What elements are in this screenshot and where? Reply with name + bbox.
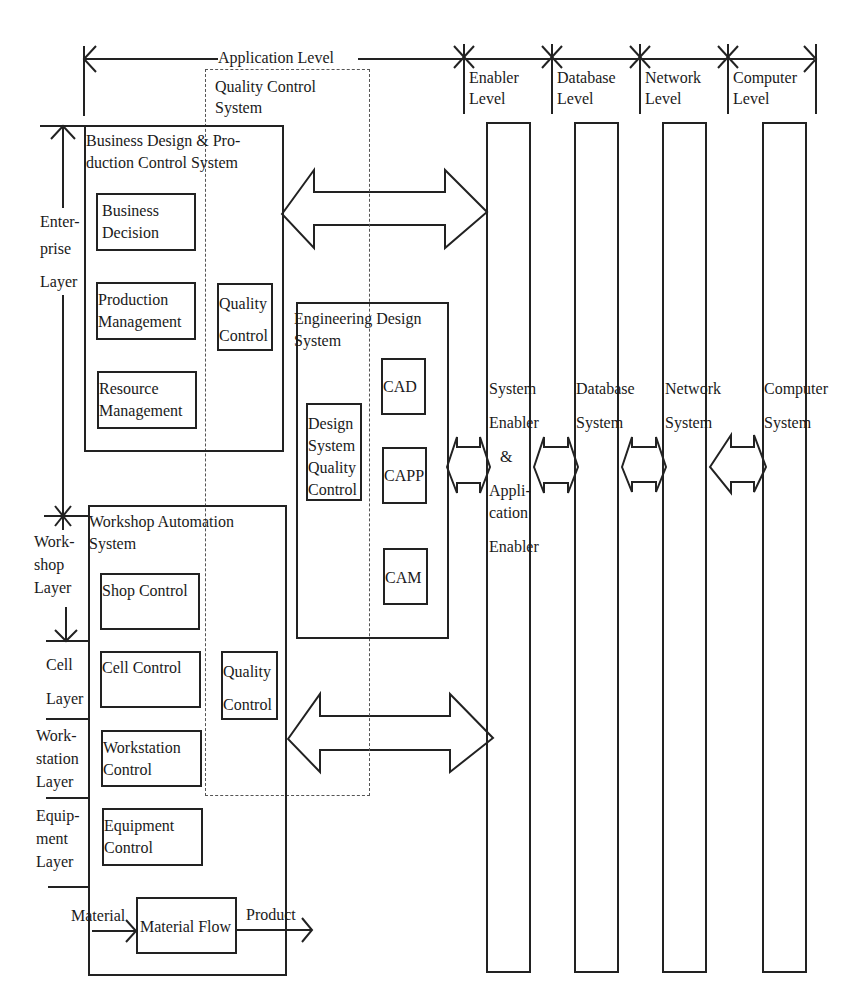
product-output-label: Product (246, 904, 296, 925)
computer-level-label: ComputerLevel (733, 67, 797, 109)
business-decision-module[interactable]: Business Decision (96, 193, 196, 251)
quality-control-system-label: Quality ControlSystem (215, 76, 316, 118)
workshop-quality-control-module[interactable]: Quality Control (221, 651, 278, 720)
cam-module[interactable]: CAM (383, 548, 428, 605)
enabler-level-label: EnablerLevel (469, 67, 519, 109)
workshop-system-title: Workshop Automation System (89, 511, 234, 555)
equipment-control-module[interactable]: Equipment Control (102, 808, 203, 866)
workstation-control-module[interactable]: Workstation Control (101, 730, 202, 787)
enterprise-layer-label: Enter- prise Layer (40, 208, 80, 295)
double-arrow-enabler-database-icon (534, 437, 578, 493)
cell-layer-label: Cell Layer (46, 648, 83, 716)
database-level-label: DatabaseLevel (557, 67, 616, 109)
business-system-title: Business Design & Pro- duction Control S… (86, 130, 240, 174)
workshop-layer-label: Work- shop Layer (34, 530, 74, 599)
material-flow-module[interactable]: Material Flow (136, 897, 237, 954)
network-level-label: NetworkLevel (645, 67, 701, 109)
workstation-layer-label: Work- station Layer (36, 724, 79, 793)
cell-control-module[interactable]: Cell Control (100, 651, 201, 708)
network-system-column[interactable] (662, 122, 707, 973)
application-level-label: Application Level (218, 47, 334, 68)
capp-module[interactable]: CAPP (382, 447, 427, 504)
resource-management-module[interactable]: Resource Management (97, 371, 197, 429)
double-arrow-engineering-enabler-icon (447, 437, 490, 493)
double-arrow-database-network-icon (622, 437, 666, 492)
shop-control-module[interactable]: Shop Control (100, 573, 200, 630)
computer-system-label: Computer System (764, 372, 828, 440)
material-input-label: Material (71, 905, 125, 926)
double-arrow-network-computer-icon (710, 435, 766, 493)
cad-module[interactable]: CAD (381, 358, 426, 415)
network-system-label: Network System (665, 372, 721, 440)
engineering-system-title: Engineering Design System (294, 308, 422, 352)
enabler-system-label: System Enabler & Appli- cation Enabler (489, 372, 539, 564)
database-system-label: Database System (576, 372, 635, 440)
equipment-layer-label: Equip- ment Layer (36, 804, 80, 873)
design-system-quality-control-module[interactable]: Design System Quality Control (306, 403, 362, 501)
production-management-module[interactable]: Production Management (96, 282, 196, 340)
business-quality-control-module[interactable]: Quality Control (217, 283, 273, 351)
computer-system-column[interactable] (762, 122, 807, 973)
database-system-column[interactable] (574, 122, 619, 973)
layer-star-tick (44, 504, 90, 530)
